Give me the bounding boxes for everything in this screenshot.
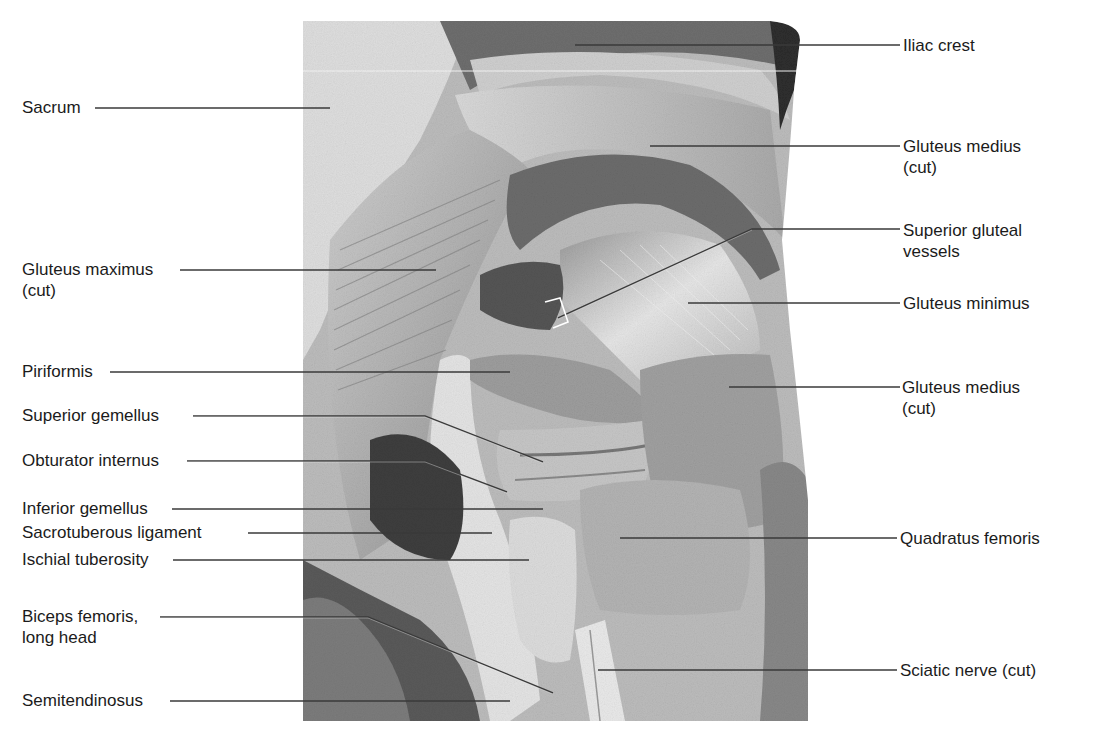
label-gluteus-medius-lower: Gluteus medius(cut) (902, 377, 1020, 419)
label-iliac-crest: Iliac crest (903, 35, 975, 56)
label-inferior-gemellus: Inferior gemellus (22, 498, 148, 519)
label-obturator-internus: Obturator internus (22, 450, 159, 471)
label-sciatic-nerve: Sciatic nerve (cut) (900, 660, 1036, 681)
label-superior-gluteal-vessels: Superior glutealvessels (903, 220, 1022, 262)
dissection-photo (0, 0, 1106, 736)
anatomy-figure: Sacrum Gluteus maximus(cut) Piriformis S… (0, 0, 1106, 736)
label-gluteus-medius-upper: Gluteus medius(cut) (903, 136, 1021, 178)
label-gluteus-minimus: Gluteus minimus (903, 293, 1030, 314)
label-sacrotuberous-ligament: Sacrotuberous ligament (22, 522, 202, 543)
label-biceps-femoris: Biceps femoris,long head (22, 606, 138, 648)
label-semitendinosus: Semitendinosus (22, 690, 143, 711)
label-quadratus-femoris: Quadratus femoris (900, 528, 1040, 549)
label-sacrum: Sacrum (22, 97, 81, 118)
label-piriformis: Piriformis (22, 361, 93, 382)
label-gluteus-maximus: Gluteus maximus(cut) (22, 259, 153, 301)
label-ischial-tuberosity: Ischial tuberosity (22, 549, 149, 570)
label-superior-gemellus: Superior gemellus (22, 405, 159, 426)
